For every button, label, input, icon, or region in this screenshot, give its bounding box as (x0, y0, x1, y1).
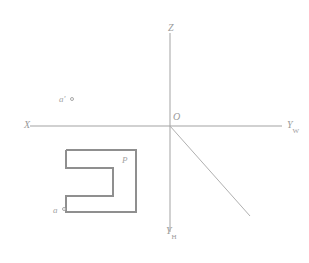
axis-label-x: X (24, 120, 30, 130)
shape-label-p: P (122, 156, 128, 165)
front-view-point-marker (70, 97, 74, 101)
axis-label-yh: YH (166, 226, 177, 239)
axis-label-yw-subscript: W (293, 127, 300, 135)
front-view-point-label: a' (59, 95, 65, 104)
axis-label-yh-base: Y (166, 225, 172, 236)
top-view-point-marker (62, 207, 66, 211)
axis-label-yh-subscript: H (172, 233, 177, 241)
axis-label-yw-base: Y (287, 119, 293, 130)
axis-label-z: Z (168, 23, 174, 33)
top-view-point-label: a (53, 206, 58, 215)
figure-canvas: X YW Z YH O a' a P (0, 0, 309, 263)
projection-diagram-svg (0, 0, 309, 263)
axis-label-yw: YW (287, 120, 299, 133)
diagonal-projection-axis-line (170, 126, 250, 216)
origin-label: O (173, 112, 180, 122)
